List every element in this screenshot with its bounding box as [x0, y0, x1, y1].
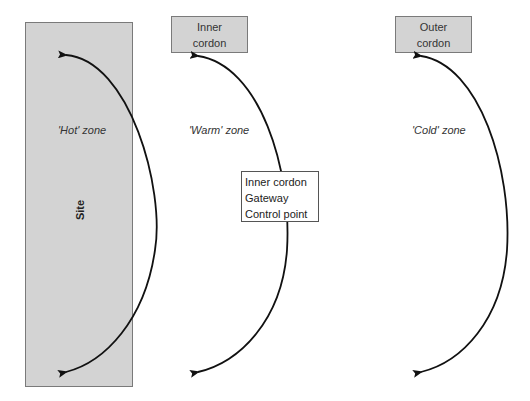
info-line-gateway: Gateway [245, 190, 318, 206]
cold-zone-arrow [421, 56, 508, 372]
info-line-inner-cordon: Inner cordon [245, 174, 318, 190]
inner-cordon-info-box: Inner cordon Gateway Control point [241, 171, 319, 222]
hot-zone-arrow [66, 55, 157, 372]
info-line-control-point: Control point [245, 206, 318, 222]
